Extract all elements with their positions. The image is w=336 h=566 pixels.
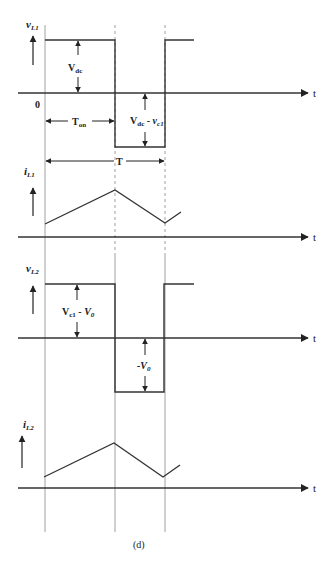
panel-vL2: vL2 t Vc1 - V0 -V0 [18, 262, 316, 392]
time-guides [45, 25, 165, 532]
figure-caption: (d) [133, 539, 145, 551]
vL2-label: vL2 [26, 262, 39, 276]
iL2-t-label: t [313, 482, 316, 494]
iL1-label: iL1 [24, 165, 35, 179]
vL1-label: vL1 [26, 18, 39, 32]
vL2-t-label: t [313, 332, 316, 344]
panel-iL1: iL1 t [18, 165, 316, 243]
panel-iL2: iL2 t [18, 418, 316, 494]
neg-v0-label: -V0 [137, 360, 151, 373]
vL1-t-label: t [313, 87, 316, 99]
vdc-minus-vc1-label: Vdc - vc1 [130, 115, 164, 128]
iL1-waveform [45, 190, 181, 224]
iL2-waveform [44, 443, 180, 477]
period-label: T [116, 156, 123, 167]
ton-label: Ton [72, 116, 86, 129]
iL2-label: iL2 [23, 418, 34, 432]
waveform-diagram: vL1 t 0 Vdc Vdc - vc1 Ton T iL1 t vL2 t [0, 0, 336, 566]
panel-vL1: vL1 t 0 Vdc Vdc - vc1 Ton T [18, 18, 316, 167]
vdc-label: Vdc [68, 62, 82, 75]
vc1-minus-v0-label: Vc1 - V0 [62, 306, 95, 319]
iL1-t-label: t [313, 231, 316, 243]
origin-label: 0 [35, 99, 40, 110]
